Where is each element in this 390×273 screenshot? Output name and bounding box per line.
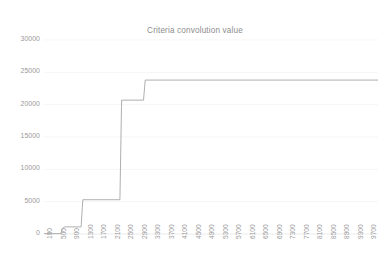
y-axis-tick-label: 30000: [0, 35, 40, 42]
series-line: [44, 80, 378, 234]
chart-plot-area: [0, 0, 390, 273]
y-axis-tick-label: 25000: [0, 67, 40, 74]
y-axis-tick-label: 10000: [0, 164, 40, 171]
chart-container: Criteria convolution value 0500010000150…: [0, 0, 390, 273]
data-series-line: [44, 80, 378, 234]
y-axis-tick-label: 20000: [0, 100, 40, 107]
y-axis-tick-label: 5000: [0, 197, 40, 204]
gridlines: [44, 40, 378, 234]
y-axis-tick-label: 15000: [0, 132, 40, 139]
y-axis-tick-label: 0: [0, 229, 40, 236]
